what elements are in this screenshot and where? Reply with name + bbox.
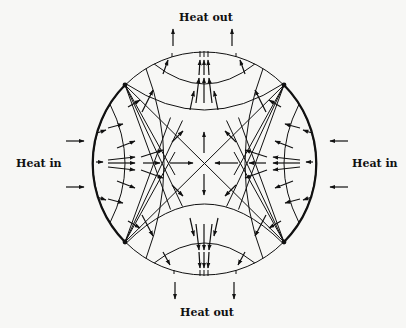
heat-flow-diagram: Heat out Heat out Heat in Heat in (0, 0, 406, 328)
heat-in-right-label: Heat in (352, 157, 398, 170)
heat-out-top-label: Heat out (179, 11, 233, 24)
external-heat-arrows (66, 29, 348, 299)
heat-out-bottom-label: Heat out (180, 306, 234, 319)
heat-in-left-label: Heat in (16, 157, 62, 170)
